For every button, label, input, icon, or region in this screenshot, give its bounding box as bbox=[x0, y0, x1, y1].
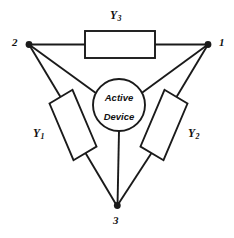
component-label-y1: Y1 bbox=[33, 128, 45, 141]
y2-lead-bottom bbox=[117, 153, 152, 206]
y1-resistor-box bbox=[50, 90, 97, 160]
y3-resistor-box bbox=[85, 31, 155, 58]
branch-y3 bbox=[29, 31, 208, 58]
component-label-y3: Y3 bbox=[110, 10, 122, 23]
component-label-y1-subscript: 1 bbox=[40, 132, 45, 141]
y2-lead-top bbox=[177, 45, 209, 98]
component-label-y3-subscript: 3 bbox=[117, 14, 122, 23]
node-dot-3 bbox=[114, 202, 121, 209]
active-device-label-line1: Active bbox=[93, 92, 145, 103]
node-label-1: 1 bbox=[219, 37, 225, 48]
node-label-2: 2 bbox=[12, 37, 18, 48]
device-lead-node3 bbox=[118, 131, 120, 206]
component-label-y1-base: Y bbox=[33, 127, 40, 139]
y2-resistor-box bbox=[141, 90, 188, 160]
active-device-circle bbox=[93, 79, 145, 131]
schematic-canvas: 2 1 3 Y3 Y1 Y2 Active Device bbox=[0, 0, 234, 238]
y1-lead-bottom bbox=[86, 153, 118, 206]
node-dot-1 bbox=[205, 41, 212, 48]
active-device-label-line2: Device bbox=[93, 111, 145, 122]
component-label-y2: Y2 bbox=[188, 128, 200, 141]
y1-lead-top bbox=[29, 45, 61, 98]
component-label-y2-base: Y bbox=[188, 127, 195, 139]
component-label-y2-subscript: 2 bbox=[195, 132, 200, 141]
node-label-3: 3 bbox=[113, 215, 119, 226]
node-dot-2 bbox=[26, 41, 33, 48]
component-label-y3-base: Y bbox=[110, 9, 117, 21]
